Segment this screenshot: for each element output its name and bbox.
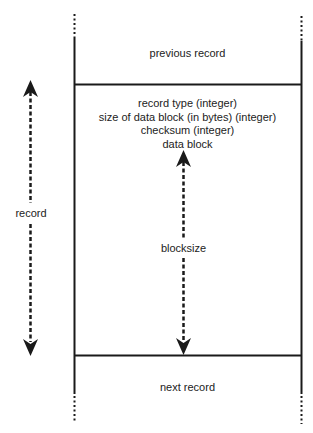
field-data-block: data block bbox=[74, 138, 301, 152]
next-record-label: next record bbox=[74, 381, 301, 394]
record-fields-list: record type (integer) size of data block… bbox=[74, 97, 301, 151]
record-span-label: record bbox=[4, 207, 58, 220]
field-checksum: checksum (integer) bbox=[74, 124, 301, 138]
blocksize-span-label: blocksize bbox=[150, 242, 217, 255]
field-record-type: record type (integer) bbox=[74, 97, 301, 111]
field-data-block-size: size of data block (in bytes) (integer) bbox=[74, 111, 301, 125]
arrow-down-icon bbox=[176, 338, 191, 355]
previous-record-label: previous record bbox=[74, 47, 301, 60]
